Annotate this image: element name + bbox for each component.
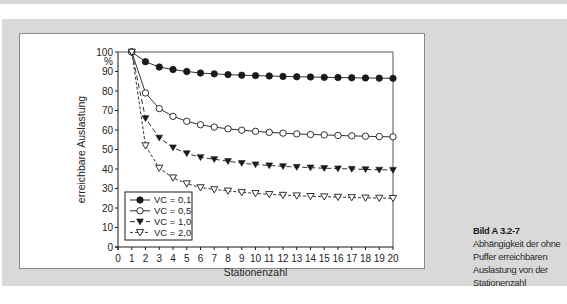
open-circle-marker <box>362 133 368 139</box>
open-circle-marker <box>137 208 143 214</box>
open-circle-marker <box>211 124 217 130</box>
filled-circle-marker <box>266 73 272 79</box>
x-tick-label: 15 <box>319 253 331 264</box>
filled-triangle-down-marker <box>142 116 149 122</box>
filled-circle-marker <box>335 74 341 80</box>
open-triangle-down-marker <box>376 195 383 201</box>
open-triangle-down-marker <box>266 192 273 198</box>
caption-line: Auslastung von der <box>473 263 567 276</box>
y-tick-label: 50 <box>102 144 114 155</box>
open-circle-marker <box>307 131 313 137</box>
open-circle-marker <box>225 126 231 132</box>
filled-circle-marker <box>362 75 368 81</box>
open-circle-marker <box>239 127 245 133</box>
legend-label: VC = 2,0 <box>154 227 191 238</box>
filled-triangle-down-marker <box>225 159 232 165</box>
chart-legend: VC = 0,1VC = 0,5VC = 1,0VC = 2,0 <box>125 192 192 240</box>
filled-circle-marker <box>170 66 176 72</box>
figure-caption: Bild A 3.2-7 Abhängigkeit der ohne Puffe… <box>473 224 567 289</box>
filled-circle-marker <box>294 74 300 80</box>
open-circle-marker <box>280 130 286 136</box>
x-tick-label: 0 <box>115 253 121 264</box>
open-circle-marker <box>266 129 272 135</box>
legend-label: VC = 1,0 <box>154 216 191 227</box>
series-vc-1-0 <box>128 49 396 173</box>
x-tick-label: 3 <box>156 253 162 264</box>
caption-line: Puffer erreichbaren <box>473 250 567 263</box>
x-tick-label: 1 <box>129 253 135 264</box>
filled-circle-marker <box>142 59 148 65</box>
filled-circle-marker <box>197 70 203 76</box>
y-unit-label: % <box>104 56 113 67</box>
open-triangle-down-marker <box>142 143 149 149</box>
open-circle-marker <box>142 90 148 96</box>
open-circle-marker <box>170 113 176 119</box>
filled-circle-marker <box>349 75 355 81</box>
x-tick-label: 17 <box>346 253 358 264</box>
y-tick-label: 30 <box>102 183 114 194</box>
y-tick-label: 10 <box>102 222 114 233</box>
x-tick-label: 10 <box>250 253 262 264</box>
open-circle-marker <box>349 133 355 139</box>
series-line <box>132 52 393 137</box>
open-circle-marker <box>321 132 327 138</box>
series-vc-0-5 <box>129 49 397 140</box>
y-tick-label: 20 <box>102 203 114 214</box>
y-tick-label: 90 <box>102 66 114 77</box>
x-tick-label: 13 <box>291 253 303 264</box>
y-tick-label: 40 <box>102 164 114 175</box>
series-line <box>132 52 393 78</box>
x-tick-label: 14 <box>305 253 317 264</box>
filled-circle-marker <box>280 73 286 79</box>
x-tick-label: 5 <box>184 253 190 264</box>
y-tick-label: 0 <box>107 242 113 253</box>
x-axis-title: Stationenzahl <box>224 266 288 278</box>
x-tick-label: 7 <box>211 253 217 264</box>
open-triangle-down-marker <box>169 175 176 181</box>
open-circle-marker <box>294 131 300 137</box>
series-vc-0-1 <box>129 49 397 82</box>
open-circle-marker <box>184 118 190 124</box>
open-triangle-down-marker <box>156 165 163 171</box>
x-tick-label: 12 <box>277 253 289 264</box>
open-triangle-down-marker <box>362 195 369 201</box>
filled-triangle-down-marker <box>156 135 163 141</box>
caption-line: Stationenzahl <box>473 276 567 289</box>
open-circle-marker <box>197 122 203 128</box>
open-circle-marker <box>390 134 396 140</box>
series-vc-2-0 <box>128 49 396 201</box>
open-triangle-down-marker <box>307 194 314 200</box>
chart-series <box>128 49 396 202</box>
filled-circle-marker <box>252 72 258 78</box>
filled-circle-marker <box>307 74 313 80</box>
x-tick-label: 4 <box>170 253 176 264</box>
x-tick-label: 16 <box>332 253 344 264</box>
legend-label: VC = 0,1 <box>154 194 191 205</box>
open-triangle-down-marker <box>252 191 259 197</box>
x-tick-label: 2 <box>143 253 149 264</box>
filled-circle-marker <box>321 74 327 80</box>
x-tick-label: 18 <box>360 253 372 264</box>
x-tick-label: 11 <box>264 253 275 264</box>
caption-line: Abhängigkeit der ohne <box>473 237 567 250</box>
open-circle-marker <box>252 128 258 134</box>
x-tick-label: 8 <box>225 253 231 264</box>
x-tick-label: 9 <box>239 253 245 264</box>
filled-circle-marker <box>156 64 162 70</box>
filled-circle-marker <box>390 75 396 81</box>
filled-triangle-down-marker <box>183 151 190 157</box>
open-circle-marker <box>156 105 162 111</box>
open-triangle-down-marker <box>321 194 328 200</box>
filled-circle-marker <box>137 197 143 203</box>
filled-circle-marker <box>239 72 245 78</box>
filled-circle-marker <box>211 71 217 77</box>
filled-circle-marker <box>376 75 382 81</box>
y-tick-label: 60 <box>102 125 114 136</box>
filled-triangle-down-marker <box>170 145 177 151</box>
open-circle-marker <box>376 133 382 139</box>
open-triangle-down-marker <box>197 185 204 191</box>
x-tick-label: 6 <box>198 253 204 264</box>
filled-triangle-down-marker <box>238 161 245 167</box>
legend-label: VC = 0,5 <box>154 205 191 216</box>
open-triangle-down-marker <box>211 187 218 193</box>
